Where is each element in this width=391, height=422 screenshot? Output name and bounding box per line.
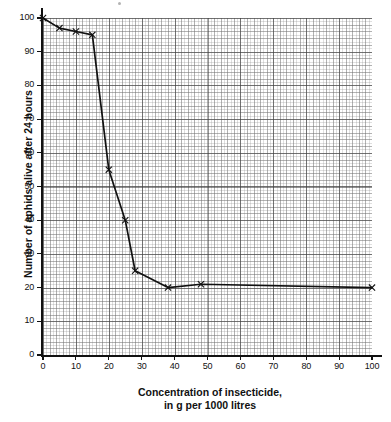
x-tick xyxy=(339,356,340,360)
y-tick xyxy=(37,354,41,355)
y-tick xyxy=(37,186,41,187)
x-axis-title-line2: in g per 1000 litres xyxy=(60,399,360,412)
y-tick xyxy=(37,85,41,86)
y-tick-label: 90 xyxy=(8,46,34,56)
x-tick-label: 90 xyxy=(324,361,354,371)
y-tick-label: 10 xyxy=(8,315,34,325)
data-series-layer xyxy=(43,18,372,355)
y-tick xyxy=(37,17,41,18)
x-axis-line xyxy=(41,355,382,357)
scan-artifact-speck xyxy=(118,2,121,5)
x-tick xyxy=(306,356,307,360)
x-tick xyxy=(273,356,274,360)
y-tick xyxy=(37,119,41,120)
y-tick xyxy=(37,253,41,254)
x-tick-label: 0 xyxy=(28,361,58,371)
x-tick-label: 10 xyxy=(61,361,91,371)
x-tick xyxy=(240,356,241,360)
x-axis-title-line1: Concentration of insecticide, xyxy=(60,386,360,399)
y-tick xyxy=(37,287,41,288)
y-axis-line xyxy=(41,8,43,357)
x-tick xyxy=(141,356,142,360)
x-tick-label: 100 xyxy=(357,361,387,371)
x-tick xyxy=(174,356,175,360)
plot-area xyxy=(43,18,372,355)
y-tick xyxy=(37,51,41,52)
y-tick xyxy=(37,152,41,153)
data-line xyxy=(43,18,372,288)
y-tick xyxy=(37,321,41,322)
x-tick-label: 40 xyxy=(160,361,190,371)
x-tick xyxy=(207,356,208,360)
x-tick-label: 70 xyxy=(258,361,288,371)
x-tick xyxy=(75,356,76,360)
x-tick-label: 60 xyxy=(225,361,255,371)
y-tick xyxy=(37,220,41,221)
x-tick-label: 20 xyxy=(94,361,124,371)
x-tick-label: 30 xyxy=(127,361,157,371)
y-tick-label: 100 xyxy=(8,12,34,22)
x-tick-label: 50 xyxy=(193,361,223,371)
x-axis-title: Concentration of insecticide, in g per 1… xyxy=(60,386,360,412)
x-tick xyxy=(42,356,43,360)
y-tick-label: 0 xyxy=(8,349,34,359)
x-tick xyxy=(108,356,109,360)
x-tick-label: 80 xyxy=(291,361,321,371)
y-axis-title: Number of aphids alive after 24 hours xyxy=(22,64,34,304)
x-tick xyxy=(371,356,372,360)
data-point-markers xyxy=(40,15,375,291)
line-chart: 0102030405060708090100 01020304050607080… xyxy=(0,0,391,422)
